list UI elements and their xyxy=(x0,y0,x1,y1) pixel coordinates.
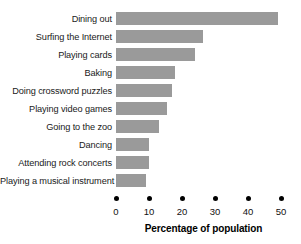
category-label: Attending rock concerts xyxy=(0,155,112,173)
x-axis-tick-dot xyxy=(213,196,218,201)
bar xyxy=(116,120,159,133)
x-axis-tick-dot xyxy=(180,196,185,201)
category-label: Playing video games xyxy=(0,101,112,119)
bar-row: Baking xyxy=(0,65,301,83)
bar-row: Dancing xyxy=(0,137,301,155)
bar xyxy=(116,30,203,43)
category-label: Dining out xyxy=(0,11,112,29)
x-axis-tick-dot xyxy=(114,196,119,201)
x-axis-tick-dot xyxy=(279,196,284,201)
x-axis: Percentage of population 01020304050 xyxy=(0,196,301,244)
bar xyxy=(116,66,175,79)
x-axis-title: Percentage of population xyxy=(116,223,291,234)
bar-row: Playing cards xyxy=(0,47,301,65)
bar-row: Playing video games xyxy=(0,101,301,119)
bar-row: Doing crossword puzzles xyxy=(0,83,301,101)
bar xyxy=(116,12,278,25)
category-label: Dancing xyxy=(0,137,112,155)
category-label: Baking xyxy=(0,65,112,83)
bar xyxy=(116,156,149,169)
category-label: Surfing the Internet xyxy=(0,29,112,47)
bar xyxy=(116,84,172,97)
plot-area: Dining outSurfing the InternetPlaying ca… xyxy=(0,0,301,200)
bar xyxy=(116,102,167,115)
category-label: Going to the zoo xyxy=(0,119,112,137)
bar-row: Attending rock concerts xyxy=(0,155,301,173)
x-axis-tick-dot xyxy=(246,196,251,201)
bar-row: Playing a musical instrument xyxy=(0,173,301,191)
bar-row: Dining out xyxy=(0,11,301,29)
x-axis-tick-label: 50 xyxy=(261,206,301,217)
bar-chart: Dining outSurfing the InternetPlaying ca… xyxy=(0,0,301,244)
bar xyxy=(116,138,149,151)
bar xyxy=(116,48,195,61)
category-label: Playing a musical instrument xyxy=(0,173,112,191)
x-axis-tick-dot xyxy=(147,196,152,201)
bar-row: Going to the zoo xyxy=(0,119,301,137)
category-label: Doing crossword puzzles xyxy=(0,83,112,101)
bar-row: Surfing the Internet xyxy=(0,29,301,47)
bar xyxy=(116,174,146,187)
category-label: Playing cards xyxy=(0,47,112,65)
